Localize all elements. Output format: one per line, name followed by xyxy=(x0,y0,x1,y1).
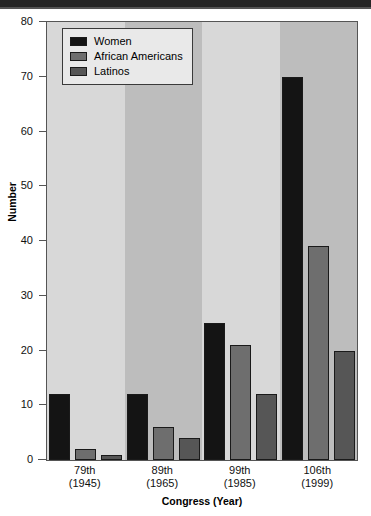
y-axis-baseline-mark xyxy=(38,459,47,460)
y-tick-label: 10 xyxy=(21,399,33,410)
y-tick-mark xyxy=(39,295,46,296)
legend-label: Latinos xyxy=(94,66,129,77)
x-tick-label-group: 79th(1945) xyxy=(45,464,125,490)
x-tick-label-congress: 99th xyxy=(200,464,280,477)
bar-latinos-99th xyxy=(256,394,277,460)
x-tick-label-congress: 79th xyxy=(45,464,125,477)
y-axis: 01020304050607080 xyxy=(0,0,46,480)
y-tick-label: 40 xyxy=(21,235,33,246)
x-tick-label-year: (1999) xyxy=(277,477,357,490)
scan-artifact-strip-secondary xyxy=(0,7,371,9)
y-tick-mark xyxy=(39,21,46,22)
y-tick-label: 70 xyxy=(21,70,33,81)
bar-latinos-79th xyxy=(101,455,122,460)
y-tick-label: 80 xyxy=(21,16,33,27)
x-tick-label-year: (1965) xyxy=(122,477,202,490)
bar-women-106th xyxy=(282,77,303,460)
bar-latinos-106th xyxy=(334,351,355,461)
legend-swatch-icon xyxy=(70,67,87,76)
legend-swatch-icon xyxy=(70,52,87,61)
y-axis-title: Number xyxy=(6,172,18,232)
bar-women-99th xyxy=(204,323,225,460)
y-tick-mark xyxy=(39,350,46,351)
y-tick-mark xyxy=(39,131,46,132)
y-tick-label: 0 xyxy=(27,454,33,465)
y-tick-label: 30 xyxy=(21,289,33,300)
legend-label: Women xyxy=(94,36,132,47)
bar-women-89th xyxy=(127,394,148,460)
x-tick-label-group: 99th(1985) xyxy=(200,464,280,490)
x-axis-title: Congress (Year) xyxy=(46,495,358,507)
x-tick-label-year: (1945) xyxy=(45,477,125,490)
y-tick-mark xyxy=(39,404,46,405)
y-tick-label: 20 xyxy=(21,344,33,355)
legend-swatch-icon xyxy=(70,37,87,46)
y-tick-label: 60 xyxy=(21,125,33,136)
x-tick-label-group: 89th(1965) xyxy=(122,464,202,490)
bar-african-americans-99th xyxy=(230,345,251,460)
bar-women-79th xyxy=(49,394,70,460)
x-tick-label-group: 106th(1999) xyxy=(277,464,357,490)
bar-african-americans-79th xyxy=(75,449,96,460)
bar-african-americans-89th xyxy=(153,427,174,460)
x-tick-label-congress: 89th xyxy=(122,464,202,477)
y-tick-mark xyxy=(39,76,46,77)
chart-legend: WomenAfrican AmericansLatinos xyxy=(62,28,193,85)
bar-african-americans-106th xyxy=(308,246,329,460)
legend-item: Latinos xyxy=(70,64,183,79)
scan-artifact-strip xyxy=(0,0,371,7)
y-tick-label: 50 xyxy=(21,180,33,191)
x-tick-label-year: (1985) xyxy=(200,477,280,490)
x-tick-label-congress: 106th xyxy=(277,464,357,477)
y-tick-mark xyxy=(39,185,46,186)
legend-item: African Americans xyxy=(70,49,183,64)
legend-label: African Americans xyxy=(94,51,183,62)
bar-chart-figure: 01020304050607080 Number Congress (Year)… xyxy=(0,0,371,516)
bar-latinos-89th xyxy=(179,438,200,460)
plot-area xyxy=(46,21,358,461)
legend-item: Women xyxy=(70,34,183,49)
y-tick-mark xyxy=(39,240,46,241)
